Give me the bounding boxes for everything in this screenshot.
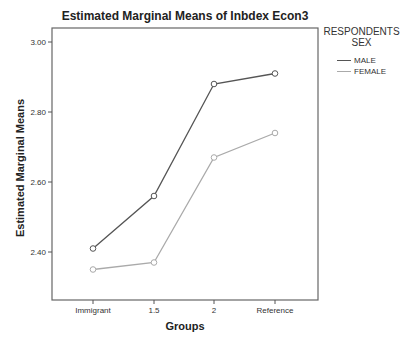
data-point-marker [90,267,96,273]
data-point-marker [272,71,278,77]
x-tick-label: Reference [257,306,294,315]
data-point-marker [211,81,217,87]
y-tick-label: 2.40 [30,248,46,257]
data-point-marker [151,260,157,266]
data-point-marker [90,246,96,252]
x-tick-label: 1.5 [148,306,160,315]
data-point-marker [211,155,217,161]
y-tick-label: 2.60 [30,178,46,187]
y-tick-label: 3.00 [30,38,46,47]
data-point-marker [272,130,278,136]
x-tick-label: Immigrant [75,306,111,315]
x-tick-label: 2 [212,306,217,315]
data-point-marker [151,193,157,199]
plot-frame [52,28,318,300]
y-tick-label: 2.80 [30,108,46,117]
plot-area: 2.402.602.803.00Immigrant1.52Reference [0,0,403,341]
